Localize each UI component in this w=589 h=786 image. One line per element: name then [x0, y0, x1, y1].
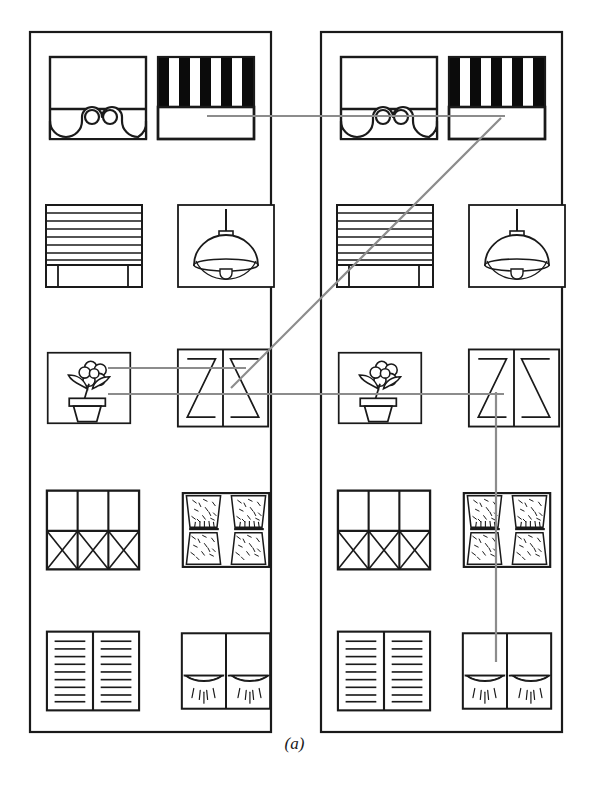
figure-stage [0, 0, 589, 786]
double-shutter-icon[interactable] [178, 349, 268, 426]
venetian-blind-icon[interactable] [46, 205, 142, 287]
patterned-curtain-icon[interactable] [183, 493, 269, 567]
striped-awning-icon[interactable] [158, 57, 254, 139]
right-catalogue-panel[interactable] [321, 32, 565, 732]
pendant-lamp-icon[interactable] [178, 205, 274, 287]
lattice-window-icon[interactable] [338, 491, 430, 570]
louvered-shutter-icon[interactable] [338, 632, 430, 711]
swag-curtain-icon[interactable] [182, 633, 270, 708]
potted-plant-icon[interactable] [48, 353, 131, 424]
swag-curtain-icon[interactable] [463, 633, 551, 708]
catalogue-diagram [0, 0, 589, 786]
figure-caption: (a) [0, 734, 589, 754]
window-with-valance-icon[interactable] [50, 57, 146, 139]
venetian-blind-icon[interactable] [337, 205, 433, 287]
potted-plant-icon[interactable] [339, 353, 422, 424]
patterned-curtain-icon[interactable] [464, 493, 550, 567]
striped-awning-icon[interactable] [449, 57, 545, 139]
lattice-window-icon[interactable] [47, 491, 139, 570]
double-shutter-icon[interactable] [469, 349, 559, 426]
louvered-shutter-icon[interactable] [47, 632, 139, 711]
pendant-lamp-icon[interactable] [469, 205, 565, 287]
window-with-valance-icon[interactable] [341, 57, 437, 139]
